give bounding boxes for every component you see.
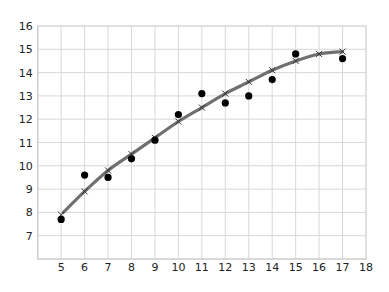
y-tick-label: 14 — [19, 67, 33, 80]
y-tick-label: 15 — [19, 43, 33, 56]
y-tick-label: 13 — [19, 90, 33, 103]
x-tick-label: 10 — [171, 261, 185, 274]
x-tick-label: 6 — [81, 261, 88, 274]
x-tick-label: 9 — [151, 261, 158, 274]
scatter-chart: 56789101112131415161718 7891011121314151… — [0, 0, 389, 292]
data-point — [104, 174, 111, 181]
data-point — [198, 90, 205, 97]
data-point — [81, 172, 88, 179]
x-tick-label: 13 — [242, 261, 256, 274]
y-tick-label: 16 — [19, 20, 33, 33]
x-tick-label: 8 — [128, 261, 135, 274]
data-point — [245, 92, 252, 99]
y-tick-label: 8 — [26, 206, 33, 219]
x-tick-label: 16 — [312, 261, 326, 274]
y-axis-ticks: 78910111213141516 — [19, 20, 33, 243]
x-tick-label: 17 — [336, 261, 350, 274]
data-point — [58, 216, 65, 223]
x-tick-label: 7 — [105, 261, 112, 274]
grid-lines — [38, 26, 366, 259]
data-point — [269, 76, 276, 83]
x-axis-ticks: 56789101112131415161718 — [58, 261, 373, 274]
x-tick-label: 12 — [218, 261, 232, 274]
data-point — [128, 155, 135, 162]
data-point — [151, 137, 158, 144]
y-tick-label: 10 — [19, 160, 33, 173]
data-point — [292, 50, 299, 57]
y-tick-label: 12 — [19, 113, 33, 126]
data-point — [175, 111, 182, 118]
fitted-curve — [63, 52, 342, 213]
x-tick-label: 15 — [289, 261, 303, 274]
x-tick-label: 5 — [58, 261, 65, 274]
y-tick-label: 11 — [19, 137, 33, 150]
x-tick-label: 18 — [359, 261, 373, 274]
x-tick-label: 11 — [195, 261, 209, 274]
x-tick-label: 14 — [265, 261, 279, 274]
y-tick-label: 7 — [26, 230, 33, 243]
data-point — [222, 99, 229, 106]
y-tick-label: 9 — [26, 183, 33, 196]
data-point — [339, 55, 346, 62]
